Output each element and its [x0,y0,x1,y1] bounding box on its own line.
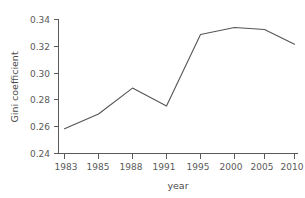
gini-coefficient-line-chart: 0.34 0.32 0.30 0.28 0.26 0.24 1983 1985 … [0,0,305,198]
y-tick-label-5: 0.34 [30,15,50,25]
y-tick-label-0: 0.24 [30,149,50,159]
y-tick-label-3: 0.30 [30,69,50,79]
x-tick-label-6: 2005 [251,162,274,172]
data-series-line [65,28,295,129]
y-tick-marks [54,20,59,154]
x-tick-label-0: 1983 [55,162,78,172]
x-tick-labels: 1983 1985 1988 1991 1995 2000 2005 2010 [55,162,304,172]
y-tick-label-4: 0.32 [30,42,50,52]
x-tick-label-2: 1988 [120,162,143,172]
x-axis-title: year [167,180,188,191]
x-tick-label-1: 1985 [87,162,110,172]
x-tick-label-3: 1991 [153,162,176,172]
x-tick-label-4: 1995 [187,162,210,172]
y-axis-title: Gini coefficient [9,51,20,122]
y-tick-label-1: 0.26 [30,122,50,132]
y-tick-label-2: 0.28 [30,95,50,105]
x-tick-label-5: 2000 [220,162,243,172]
y-tick-labels: 0.34 0.32 0.30 0.28 0.26 0.24 [30,15,50,159]
chart-canvas: 0.34 0.32 0.30 0.28 0.26 0.24 1983 1985 … [0,0,305,198]
x-tick-marks [65,154,295,159]
x-tick-label-7: 2010 [281,162,304,172]
